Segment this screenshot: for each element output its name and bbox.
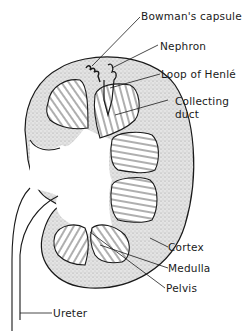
ureter-outer <box>12 188 30 331</box>
label-bowmans-capsule: Bowman's capsule <box>141 10 242 22</box>
label-medulla: Medulla <box>168 262 211 274</box>
label-cortex: Cortex <box>168 241 204 253</box>
label-nephron: Nephron <box>160 40 206 52</box>
label-collecting-duct-line1: Collecting <box>175 95 229 107</box>
label-collecting-duct-line2: duct <box>175 108 199 120</box>
medulla-pyramid <box>111 132 159 172</box>
medulla-pyramid <box>111 178 157 223</box>
kidney-diagram <box>0 0 245 331</box>
label-pelvis: Pelvis <box>166 282 197 294</box>
label-ureter: Ureter <box>53 307 87 319</box>
label-loop-of-henle: Loop of Henlé <box>161 68 236 80</box>
